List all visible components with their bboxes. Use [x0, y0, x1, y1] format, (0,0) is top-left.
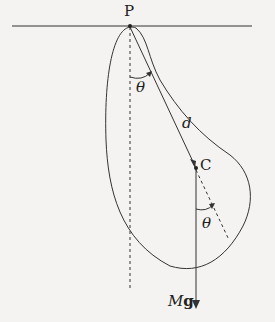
- pivot-point: [128, 24, 132, 28]
- center-of-mass-point: [194, 166, 198, 170]
- pivot-to-center-line: [130, 27, 195, 166]
- center-label: C: [200, 158, 211, 173]
- theta-top-label: θ: [136, 80, 145, 95]
- weight-label: Mg: [168, 294, 194, 309]
- gravity-symbol: g: [183, 292, 194, 310]
- theta-bottom-label: θ: [202, 216, 211, 231]
- mass-symbol: M: [168, 292, 183, 310]
- diagram-canvas: [0, 0, 275, 322]
- distance-label: d: [182, 116, 192, 131]
- pendulum-diagram: P θ d C θ Mg: [0, 0, 275, 322]
- rigid-body-outline: [106, 27, 251, 269]
- pivot-label: P: [124, 4, 134, 19]
